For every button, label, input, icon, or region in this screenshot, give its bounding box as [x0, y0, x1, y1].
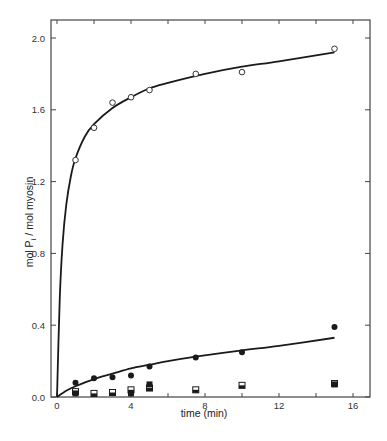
fit-curves — [57, 52, 335, 397]
x-axis-label: time (min) — [181, 407, 228, 419]
upper-fit-curve — [57, 52, 335, 397]
filled-square-point — [73, 390, 79, 396]
square-fill-half — [147, 388, 153, 391]
filled-circle-point — [91, 375, 97, 381]
square-fill-half — [239, 385, 245, 388]
x-tick-label: 4 — [128, 400, 133, 411]
filled-circle-point — [147, 363, 153, 369]
open-circle-point — [193, 71, 199, 77]
filled-square-point — [332, 381, 338, 387]
filled-circle-point — [332, 324, 338, 330]
filled-circle-point — [128, 372, 134, 378]
x-tick-label: 12 — [274, 400, 285, 411]
x-tick-label: 16 — [348, 400, 359, 411]
square-fill-half — [110, 393, 116, 396]
filled-circle-point — [239, 349, 245, 355]
y-axis-ticks: 0.00.40.81.21.62.0 — [32, 33, 370, 403]
y-tick-label: 0.4 — [32, 320, 45, 331]
filled-square-point — [128, 390, 134, 396]
y-axis-label-main: mol P — [23, 240, 35, 267]
open-circle-point — [332, 46, 338, 52]
filled-square-point — [147, 381, 153, 387]
filled-circle-point — [110, 374, 116, 380]
open-circle-point — [128, 94, 134, 100]
open-circle-point — [110, 100, 116, 106]
x-tick-label: 0 — [54, 400, 59, 411]
open-circle-point — [239, 69, 245, 75]
filled-circle-point — [193, 355, 199, 361]
open-circle-point — [73, 157, 79, 163]
square-fill-half — [91, 393, 97, 396]
y-tick-label: 0.0 — [32, 392, 45, 403]
filled-circle-point — [73, 380, 79, 386]
square-fill-half — [193, 390, 199, 393]
x-axis-ticks: 0481216 — [54, 20, 358, 411]
y-tick-label: 2.0 — [32, 33, 45, 44]
y-axis-label-rest: / mol myosin — [23, 177, 35, 239]
open-circle-point — [91, 125, 97, 131]
open-circle-point — [147, 87, 153, 93]
chart: 0481216 0.00.40.81.21.62.0 time (min) mo… — [0, 0, 387, 441]
y-tick-label: 1.6 — [32, 104, 45, 115]
